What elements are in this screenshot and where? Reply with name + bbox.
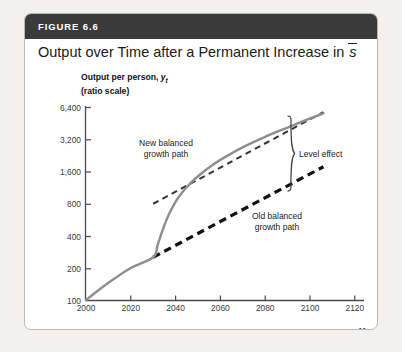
y-axis-caption-subscript-t: t — [166, 77, 168, 84]
figure-card: FIGURE 6.6 Output over Time after a Perm… — [24, 13, 378, 330]
x-axis-caption: Year — [359, 326, 378, 330]
figure-header-bar: FIGURE 6.6 — [25, 14, 377, 39]
figure-title-text: Output over Time after a Permanent Incre… — [38, 44, 348, 60]
figure-title: Output over Time after a Permanent Incre… — [38, 44, 370, 60]
figure-number-label: FIGURE 6.6 — [38, 21, 99, 32]
figure-title-variable-s-bar: s — [348, 44, 357, 60]
y-axis-caption-line2: (ratio scale) — [81, 86, 168, 98]
y-axis-caption-line1: Output per person, yt — [81, 72, 168, 86]
y-axis-caption: Output per person, yt (ratio scale) — [81, 72, 168, 98]
y-axis-caption-line1-prefix: Output per person, — [81, 72, 161, 82]
